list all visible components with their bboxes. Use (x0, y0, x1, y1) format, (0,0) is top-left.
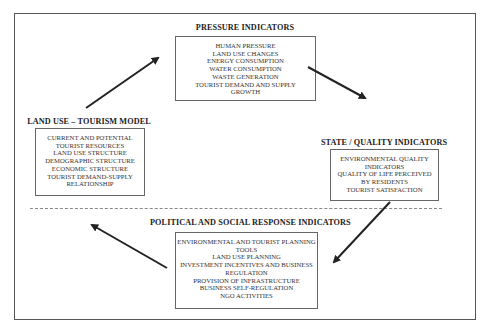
arrow-state-to-response-icon (334, 202, 390, 262)
arrow-pressure-to-state-icon (308, 67, 365, 98)
arrow-landuse-to-pressure-icon (86, 58, 158, 108)
cycle-arrows (0, 0, 490, 329)
arrow-response-to-landuse-icon (92, 225, 167, 268)
